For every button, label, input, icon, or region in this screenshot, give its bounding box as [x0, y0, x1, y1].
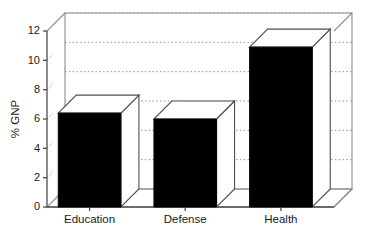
y-tick-label-4: 4	[34, 142, 40, 154]
bar-side-face-education	[121, 95, 139, 207]
bar-chart-figure: 024681012% GNPEducationDefenseHealth	[0, 0, 377, 239]
bar-side-face-health	[312, 29, 330, 207]
y-tick-label-10: 10	[28, 54, 40, 66]
bar-front-face-education	[58, 113, 121, 207]
bar-education[interactable]	[58, 95, 139, 207]
y-tick-label-12: 12	[28, 24, 40, 36]
bar-front-face-health	[250, 47, 313, 207]
depth-tick-6	[47, 113, 53, 119]
x-tick-label-education: Education	[64, 213, 115, 225]
bar-front-face-defense	[154, 119, 217, 207]
y-tick-label-8: 8	[34, 83, 40, 95]
y-tick-label-0: 0	[34, 200, 40, 212]
depth-tick-2	[47, 172, 53, 178]
y-axis-title: % GNP	[9, 100, 21, 139]
x-tick-label-health: Health	[264, 213, 297, 225]
chart-canvas: 024681012% GNPEducationDefenseHealth	[0, 0, 377, 239]
bar-health[interactable]	[250, 29, 331, 207]
y-tick-label-6: 6	[34, 112, 40, 124]
y-tick-label-2: 2	[34, 171, 40, 183]
depth-tick-10	[47, 54, 53, 60]
depth-tick-4	[47, 142, 53, 148]
bar-defense[interactable]	[154, 101, 235, 207]
depth-tick-8	[47, 84, 53, 90]
x-tick-label-defense: Defense	[164, 213, 207, 225]
depth-line-top-right	[334, 13, 352, 31]
